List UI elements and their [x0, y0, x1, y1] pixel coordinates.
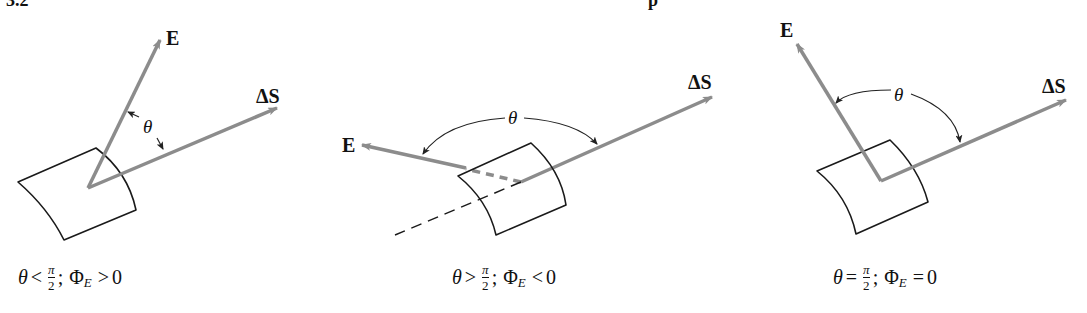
fraction-denominator: 2 [482, 277, 489, 292]
fraction-denominator: 2 [48, 277, 55, 292]
caption-theta: θ [18, 267, 28, 287]
caption-flux-subscript: E [84, 276, 92, 289]
caption-acute: θ < π 2 ; Φ E > 0 [18, 262, 122, 291]
e-label: E [780, 20, 793, 40]
angle-arrow-to-ds [157, 138, 163, 149]
caption-flux: Φ [503, 267, 518, 287]
e-label: E [166, 28, 179, 48]
ds-vector [881, 100, 1066, 181]
angle-arc-right [524, 118, 597, 144]
fraction-pi-over-2: π 2 [863, 263, 870, 292]
caption-flux: Φ [69, 267, 84, 287]
caption-relation: < [31, 267, 42, 287]
fraction-denominator: 2 [863, 277, 870, 292]
ds-label: ΔS [688, 72, 712, 92]
diagram-right [797, 44, 1066, 234]
caption-flux: Φ [884, 267, 899, 287]
figure: 3.2 p [0, 0, 1087, 313]
caption-theta: θ [452, 267, 462, 287]
ds-vector [88, 108, 277, 188]
caption-right: θ = π 2 ; Φ E = 0 [833, 262, 937, 291]
angle-arc-right [911, 94, 960, 142]
caption-theta: θ [833, 267, 843, 287]
e-vector [797, 44, 881, 181]
theta-label: θ [143, 117, 152, 136]
surface-patch [458, 143, 566, 235]
angle-arc-left [836, 90, 891, 103]
caption-flux-subscript: E [518, 276, 526, 289]
caption-flux-relation: > [98, 267, 109, 287]
angle-arc-left [423, 118, 505, 154]
e-vector [362, 145, 466, 168]
ds-label: ΔS [1042, 76, 1066, 96]
fraction-pi-over-2: π 2 [48, 263, 55, 292]
surface-patch [817, 140, 928, 234]
diagram-obtuse [362, 97, 712, 235]
e-label: E [342, 135, 355, 155]
ds-label: ΔS [256, 86, 280, 106]
theta-label: θ [508, 108, 517, 127]
caption-separator: ; [492, 267, 498, 287]
caption-separator: ; [58, 267, 64, 287]
caption-flux-value: 0 [927, 267, 937, 287]
caption-separator: ; [873, 267, 879, 287]
theta-label: θ [894, 85, 903, 104]
caption-flux-relation: < [532, 267, 543, 287]
e-vector [88, 40, 160, 188]
fraction-numerator: π [482, 263, 489, 277]
fraction-numerator: π [863, 263, 870, 277]
fraction-pi-over-2: π 2 [482, 263, 489, 292]
fraction-numerator: π [48, 263, 55, 277]
angle-arrow-to-e [128, 112, 139, 117]
caption-obtuse: θ > π 2 ; Φ E < 0 [452, 262, 556, 291]
caption-relation: > [465, 267, 476, 287]
caption-flux-relation: = [913, 267, 924, 287]
surface-patch [18, 148, 136, 240]
diagram-acute [18, 40, 277, 240]
caption-flux-subscript: E [899, 276, 907, 289]
caption-relation: = [846, 267, 857, 287]
caption-flux-value: 0 [546, 267, 556, 287]
caption-flux-value: 0 [112, 267, 122, 287]
